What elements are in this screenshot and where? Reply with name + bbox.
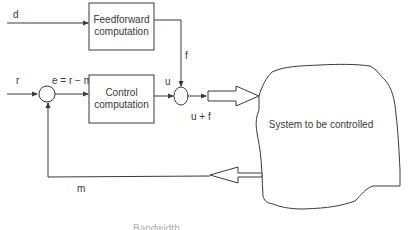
measurement-label: m bbox=[77, 183, 85, 194]
error-signal: e = r − m bbox=[52, 75, 92, 94]
bottom-cutoff-caption: Bandwidth bbox=[133, 224, 180, 230]
control-block-diagram: d Feedforward computation f r e = r − m … bbox=[0, 0, 409, 230]
feedforward-signal: f bbox=[154, 20, 188, 86]
control-label-line2: computation bbox=[94, 99, 148, 110]
feedforward-label-line1: Feedforward bbox=[93, 14, 149, 25]
combined-output-label: u + f bbox=[191, 111, 211, 122]
disturbance-label: d bbox=[13, 9, 19, 20]
feedforward-block: Feedforward computation bbox=[89, 3, 154, 50]
control-label-line1: Control bbox=[105, 87, 137, 98]
reference-signal: r bbox=[7, 75, 37, 94]
output-summing-junction bbox=[174, 87, 188, 105]
system-to-be-controlled-shape bbox=[256, 64, 400, 209]
control-output-label: u bbox=[165, 76, 171, 87]
error-label: e = r − m bbox=[52, 75, 92, 86]
control-output-signal: u bbox=[154, 76, 173, 96]
disturbance-signal: d bbox=[7, 9, 88, 23]
reference-label: r bbox=[16, 75, 20, 86]
output-block-arrow bbox=[210, 167, 262, 183]
control-block: Control computation bbox=[89, 75, 154, 123]
feedforward-label-line2: computation bbox=[94, 26, 148, 37]
feedforward-output-label: f bbox=[185, 50, 188, 61]
system-label: System to be controlled bbox=[269, 119, 374, 130]
error-summing-junction bbox=[39, 86, 55, 102]
input-block-arrow bbox=[208, 86, 259, 106]
